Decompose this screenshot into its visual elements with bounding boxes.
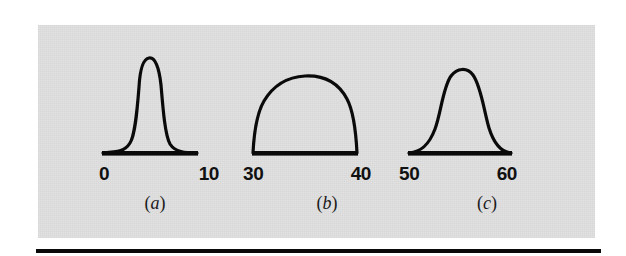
figure-bottom-rule xyxy=(36,249,601,253)
axis-tick-min-c: 50 xyxy=(399,161,419,187)
distribution-curve-c xyxy=(385,25,545,170)
caption-paren-close-b: ) xyxy=(332,193,338,213)
curve-path-b xyxy=(253,76,357,153)
caption-paren-close-a: ) xyxy=(160,193,166,213)
baseline-axis-a xyxy=(102,151,198,156)
caption-letter-a: a xyxy=(151,193,160,213)
axis-ticks-a: 0 10 xyxy=(75,161,235,187)
curve-path-a xyxy=(103,58,197,153)
axis-tick-min-b: 30 xyxy=(243,161,263,187)
panel-caption-c: (c) xyxy=(407,193,567,214)
distribution-panel-c: 50 60 (c) xyxy=(385,25,545,238)
axis-ticks-b: 30 40 xyxy=(235,161,395,187)
axis-ticks-c: 50 60 xyxy=(385,161,545,187)
distribution-panel-b: 30 40 (b) xyxy=(235,25,395,238)
baseline-axis-c xyxy=(408,151,512,156)
axis-tick-max-b: 40 xyxy=(351,161,371,187)
caption-letter-c: c xyxy=(483,193,491,213)
caption-letter-b: b xyxy=(323,193,332,213)
axis-tick-min-a: 0 xyxy=(99,161,109,187)
distribution-panel-a: 0 10 (a) xyxy=(75,25,235,238)
figure-root: 0 10 (a) 30 40 (b) 50 60 (c) xyxy=(0,0,626,256)
panel-caption-b: (b) xyxy=(247,193,407,214)
axis-tick-max-a: 10 xyxy=(199,161,219,187)
distribution-curve-b xyxy=(235,25,395,170)
baseline-axis-b xyxy=(252,151,358,156)
curve-path-c xyxy=(409,69,511,153)
distribution-curve-a xyxy=(75,25,235,170)
caption-paren-close-c: ) xyxy=(491,193,497,213)
axis-tick-max-c: 60 xyxy=(497,161,517,187)
panel-caption-a: (a) xyxy=(75,193,235,214)
